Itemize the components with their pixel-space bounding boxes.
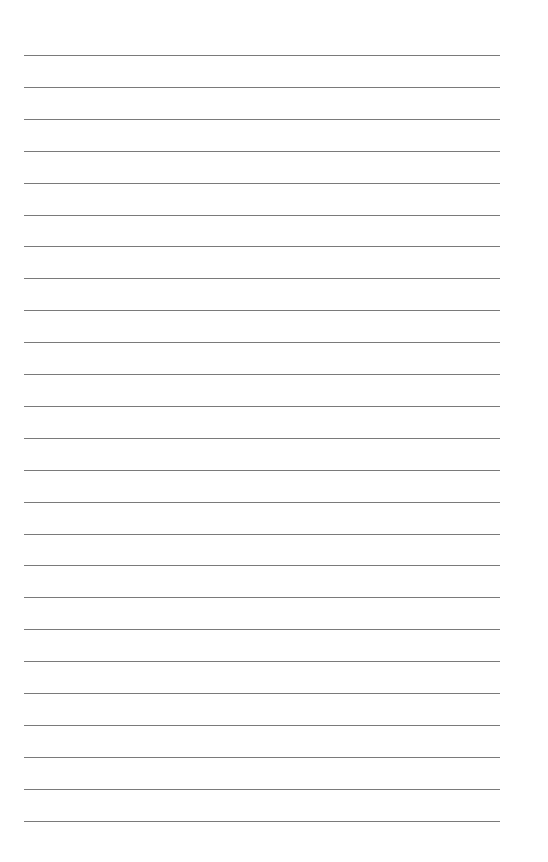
ruled-line	[24, 374, 500, 375]
ruled-line	[24, 661, 500, 662]
ruled-line	[24, 183, 500, 184]
ruled-line	[24, 629, 500, 630]
ruled-line	[24, 470, 500, 471]
ruled-line	[24, 55, 500, 56]
ruled-line	[24, 597, 500, 598]
ruled-line	[24, 725, 500, 726]
ruled-line	[24, 310, 500, 311]
ruled-line	[24, 502, 500, 503]
ruled-line	[24, 406, 500, 407]
ruled-line	[24, 821, 500, 822]
lined-paper-page	[0, 0, 548, 862]
ruled-line	[24, 246, 500, 247]
ruled-line	[24, 278, 500, 279]
ruled-line	[24, 534, 500, 535]
ruled-line	[24, 151, 500, 152]
ruled-line	[24, 215, 500, 216]
ruled-line	[24, 757, 500, 758]
ruled-line	[24, 87, 500, 88]
ruled-line	[24, 119, 500, 120]
ruled-line	[24, 789, 500, 790]
ruled-line	[24, 693, 500, 694]
ruled-line	[24, 342, 500, 343]
ruled-line	[24, 565, 500, 566]
ruled-line	[24, 438, 500, 439]
